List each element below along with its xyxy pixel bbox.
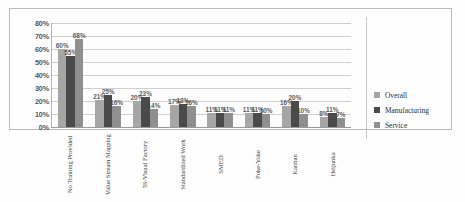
bar-value-label: 10% — [260, 107, 273, 114]
bar: 11% — [245, 113, 254, 127]
bar: 55% — [66, 56, 75, 128]
bar: 21% — [95, 100, 104, 127]
x-axis-category-text: Value Stream Mapping — [104, 134, 111, 195]
bar: 10% — [299, 114, 308, 127]
x-axis-category-label: Kanban — [276, 129, 314, 202]
x-axis-labels: No Training ProvidedValue Stream Mapping… — [51, 129, 351, 202]
y-axis-tick-label: 50% — [35, 59, 49, 66]
x-axis-category-text: No Training Provided — [66, 136, 73, 194]
bar-value-label: 25% — [102, 88, 115, 95]
bar-value-label: 16% — [185, 99, 198, 106]
bar-value-label: 68% — [73, 32, 86, 39]
bar-group: 11%11%11% — [202, 23, 239, 127]
x-axis-category-label: Value Stream Mapping — [89, 129, 127, 202]
legend-item[interactable]: Service — [374, 121, 429, 129]
bar: 10% — [262, 114, 271, 127]
bar: 60% — [58, 49, 67, 127]
y-axis-tick-label: 20% — [35, 98, 49, 105]
legend-label: Overall — [385, 91, 407, 100]
bar: 14% — [150, 109, 159, 127]
bar-group: 11%11%10% — [239, 23, 276, 127]
bar-value-label: 7% — [336, 111, 345, 118]
bar-group: 17%18%16% — [164, 23, 201, 127]
legend-item[interactable]: Overall — [374, 91, 429, 99]
plot-area: 60%55%68%21%25%16%20%23%14%17%18%16%11%1… — [51, 23, 351, 127]
y-axis-tick-label: 60% — [35, 46, 49, 53]
x-axis-category-label: SMED — [201, 129, 239, 202]
bar: 11% — [224, 113, 233, 127]
bar-value-label: 20% — [289, 94, 302, 101]
bar: 20% — [291, 101, 300, 127]
bar-groups: 60%55%68%21%25%16%20%23%14%17%18%16%11%1… — [52, 23, 351, 127]
legend-label: Service — [385, 121, 407, 130]
bar: 11% — [216, 113, 225, 127]
x-axis-category-text: SMED — [216, 155, 223, 173]
legend-divider — [366, 17, 367, 139]
bar: 11% — [253, 113, 262, 127]
bar: 68% — [75, 39, 84, 127]
bar: 16% — [112, 106, 121, 127]
bar: 11% — [207, 113, 216, 127]
bar: 20% — [133, 101, 142, 127]
bar-group: 16%20%10% — [276, 23, 313, 127]
x-axis-category-label: Poke-Yoke — [239, 129, 277, 202]
x-axis-line — [51, 127, 351, 128]
y-axis-tick-label: 10% — [35, 111, 49, 118]
y-axis-tick-label: 80% — [35, 20, 49, 27]
legend-swatch-icon — [374, 92, 380, 98]
legend-item[interactable]: Manufacturing — [374, 106, 429, 114]
x-axis-category-label: Standardized Work — [164, 129, 202, 202]
bar: 17% — [170, 105, 179, 127]
chart-legend: OverallManufacturingService — [374, 91, 429, 136]
bar: 7% — [337, 118, 346, 127]
bar-group: 60%55%68% — [52, 23, 89, 127]
y-axis-tick-label: 40% — [35, 72, 49, 79]
x-axis-category-label: Heijunka — [314, 129, 352, 202]
bar-group: 20%23%14% — [127, 23, 164, 127]
x-axis-category-label: No Training Provided — [51, 129, 89, 202]
bar: 16% — [187, 106, 196, 127]
x-axis-category-text: 5S/Visual Factory — [141, 141, 148, 188]
y-axis-labels: 80%70%60%50%40%30%20%10%0% — [21, 23, 49, 127]
chart-frame: 80%70%60%50%40%30%20%10%0% 60%55%68%21%2… — [9, 8, 452, 130]
x-axis-category-label: 5S/Visual Factory — [126, 129, 164, 202]
legend-swatch-icon — [374, 107, 380, 113]
bar: 8% — [320, 117, 329, 127]
x-axis-category-text: Standardized Work — [179, 139, 186, 189]
y-axis-tick-label: 0% — [39, 124, 49, 131]
bar: 16% — [282, 106, 291, 127]
x-axis-category-text: Heijunka — [329, 152, 336, 176]
x-axis-category-text: Kanban — [291, 154, 298, 175]
bar-value-label: 14% — [148, 102, 161, 109]
legend-label: Manufacturing — [385, 106, 429, 115]
bar-value-label: 23% — [139, 90, 152, 97]
bar-value-label: 11% — [222, 106, 234, 113]
chart-page: 80%70%60%50%40%30%20%10%0% 60%55%68%21%2… — [0, 0, 465, 202]
y-axis-tick-label: 30% — [35, 85, 49, 92]
bar-group: 8%11%7% — [314, 23, 351, 127]
y-axis-tick-label: 70% — [35, 33, 49, 40]
bar-value-label: 16% — [110, 99, 123, 106]
x-axis-category-text: Poke-Yoke — [254, 150, 261, 179]
bar-value-label: 10% — [297, 107, 310, 114]
bar: 18% — [179, 104, 188, 127]
bar-group: 21%25%16% — [89, 23, 126, 127]
legend-swatch-icon — [374, 122, 380, 128]
